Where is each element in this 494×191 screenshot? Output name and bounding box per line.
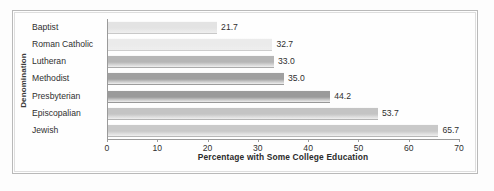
plot-area: 21.732.733.035.044.253.765.7010203040506… bbox=[107, 19, 459, 139]
bar-value-label: 21.7 bbox=[217, 20, 238, 35]
x-axis-title: Percentage with Some College Education bbox=[107, 152, 459, 162]
bar-value-label: 65.7 bbox=[438, 123, 459, 138]
bar-value-label: 35.0 bbox=[284, 71, 305, 86]
bar-value-label: 53.7 bbox=[378, 106, 399, 121]
x-axis-tick-mark bbox=[409, 139, 410, 142]
bar[interactable] bbox=[108, 21, 217, 34]
bar[interactable] bbox=[108, 38, 272, 51]
chart-figure: Denomination BaptistRoman CatholicLuther… bbox=[0, 0, 494, 191]
x-axis-tick-mark bbox=[358, 139, 359, 142]
bar[interactable] bbox=[108, 124, 438, 137]
bar-value-label: 33.0 bbox=[274, 54, 295, 69]
bar[interactable] bbox=[108, 107, 378, 120]
bar-row: 65.7 bbox=[108, 122, 460, 139]
x-axis-tick-mark bbox=[459, 139, 460, 142]
x-axis-tick-mark bbox=[107, 139, 108, 142]
y-axis-tick-label: Baptist bbox=[32, 19, 104, 36]
bar-row: 35.0 bbox=[108, 70, 460, 87]
bar-value-label: 32.7 bbox=[272, 37, 293, 52]
x-axis-line bbox=[107, 139, 459, 140]
x-axis-tick-mark bbox=[157, 139, 158, 142]
y-axis-tick-label: Roman Catholic bbox=[32, 36, 104, 53]
y-axis-tick-labels: BaptistRoman CatholicLutheranMethodistPr… bbox=[32, 19, 104, 139]
y-axis-title-text: Denomination bbox=[19, 53, 28, 108]
bar[interactable] bbox=[108, 72, 284, 85]
y-axis-tick-label: Jewish bbox=[32, 122, 104, 139]
y-axis-tick-label: Presbyterian bbox=[32, 88, 104, 105]
y-axis-tick-label: Lutheran bbox=[32, 53, 104, 70]
y-axis-title: Denomination bbox=[16, 24, 30, 136]
x-axis-tick-mark bbox=[308, 139, 309, 142]
x-axis-tick-mark bbox=[258, 139, 259, 142]
bar-row: 44.2 bbox=[108, 88, 460, 105]
bar[interactable] bbox=[108, 90, 330, 103]
bar-value-label: 44.2 bbox=[330, 89, 351, 104]
bar[interactable] bbox=[108, 55, 274, 68]
bar-row: 32.7 bbox=[108, 36, 460, 53]
x-axis-tick-mark bbox=[208, 139, 209, 142]
bar-row: 33.0 bbox=[108, 53, 460, 70]
bar-row: 53.7 bbox=[108, 105, 460, 122]
bar-row: 21.7 bbox=[108, 19, 460, 36]
y-axis-tick-label: Episcopalian bbox=[32, 105, 104, 122]
y-axis-tick-label: Methodist bbox=[32, 70, 104, 87]
